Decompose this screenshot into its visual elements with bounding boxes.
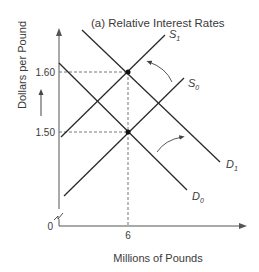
label-d1: D1 bbox=[226, 158, 238, 172]
chart-svg: (a) Relative Interest Rates Dollars per … bbox=[0, 0, 259, 272]
y-axis-label: Dollars per Pound bbox=[16, 21, 28, 109]
x-tick-6: 6 bbox=[125, 230, 131, 241]
y-tick-160: 1.60 bbox=[36, 67, 56, 78]
label-s1: S1 bbox=[169, 28, 180, 42]
curve-d0 bbox=[59, 63, 187, 190]
label-d0: D0 bbox=[192, 190, 204, 204]
equilibrium-initial bbox=[126, 130, 131, 135]
label-s0: S0 bbox=[188, 77, 199, 91]
chart-title: (a) Relative Interest Rates bbox=[91, 17, 225, 29]
chart-figure: (a) Relative Interest Rates Dollars per … bbox=[0, 0, 259, 272]
axis-break-icon bbox=[54, 213, 63, 220]
x-origin-label: 0 bbox=[47, 221, 53, 232]
y-tick-150: 1.50 bbox=[36, 127, 56, 138]
shift-arrow-demand-icon bbox=[157, 137, 182, 152]
curve-s1 bbox=[61, 35, 165, 137]
curve-s0 bbox=[64, 78, 184, 196]
equilibrium-new bbox=[126, 70, 131, 75]
x-axis-label: Millions of Pounds bbox=[113, 252, 203, 264]
shift-arrow-supply-icon bbox=[149, 62, 172, 82]
